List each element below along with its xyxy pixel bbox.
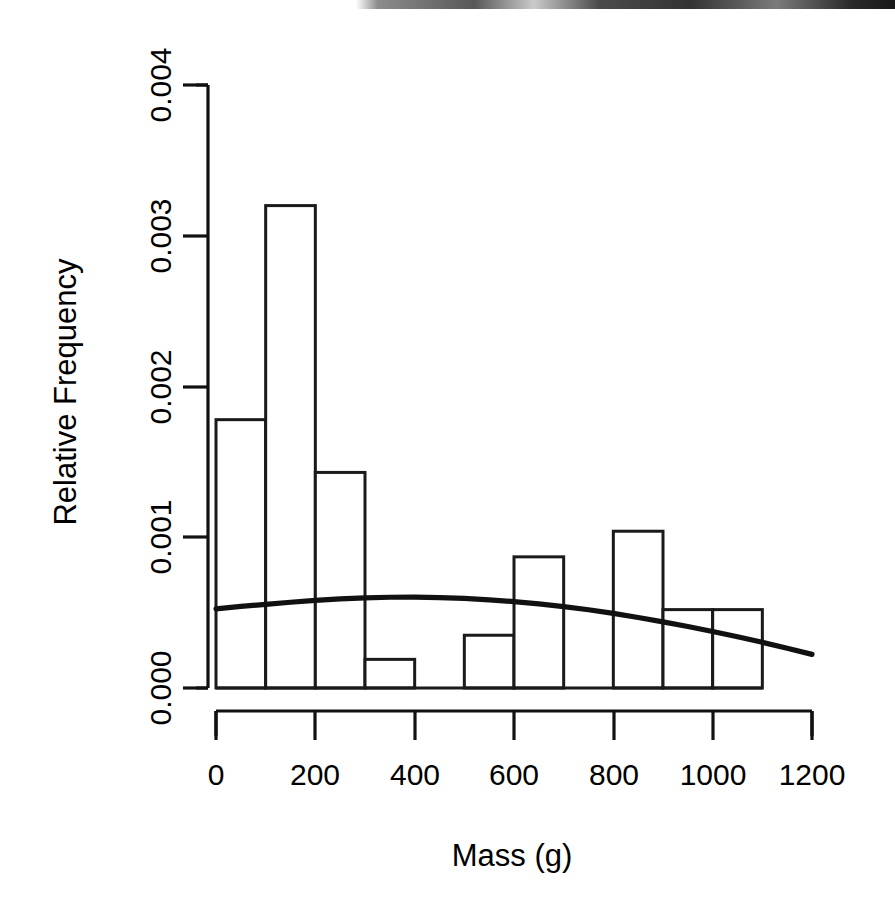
x-tick-labels: 0 200 400 600 800 1000 1200 — [208, 758, 846, 791]
y-tick-label-1: 0.001 — [144, 499, 177, 574]
histogram-bar — [514, 557, 564, 688]
histogram-bar — [464, 635, 514, 688]
y-tick-label-2: 0.002 — [144, 349, 177, 424]
x-tick-label-0: 0 — [208, 758, 225, 791]
y-tick-labels: 0.004 0.003 0.002 0.001 0.000 — [144, 47, 177, 725]
histogram-bar — [365, 659, 415, 688]
x-axis — [216, 711, 812, 740]
histogram-bar — [713, 610, 763, 688]
chart-canvas: 0.004 0.003 0.002 0.001 0.000 Relative F… — [0, 0, 895, 908]
histogram-bar — [216, 420, 266, 688]
y-tick-label-0: 0.000 — [144, 650, 177, 725]
y-tick-label-3: 0.003 — [144, 198, 177, 273]
y-tick-label-4: 0.004 — [144, 47, 177, 122]
histogram-bar — [266, 206, 316, 688]
x-tick-label-200: 200 — [290, 758, 340, 791]
x-tick-label-400: 400 — [390, 758, 440, 791]
x-tick-label-1000: 1000 — [680, 758, 747, 791]
y-axis-title: Relative Frequency — [48, 258, 83, 526]
histogram-bar — [315, 472, 365, 688]
x-tick-label-800: 800 — [589, 758, 639, 791]
histogram-bar — [613, 531, 663, 688]
y-axis — [183, 85, 208, 688]
x-tick-label-1200: 1200 — [779, 758, 846, 791]
histogram-bars — [216, 206, 762, 688]
histogram-figure: 0.004 0.003 0.002 0.001 0.000 Relative F… — [0, 0, 895, 908]
x-tick-label-600: 600 — [489, 758, 539, 791]
x-axis-title: Mass (g) — [452, 838, 573, 873]
